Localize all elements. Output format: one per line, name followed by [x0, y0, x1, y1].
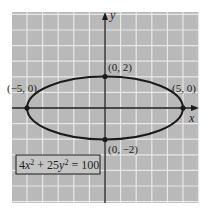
ellipse-graph: y x (0, 2) (0, −2) (−5, 0) (5, 0) 4x2 + …: [0, 0, 210, 215]
point-right: [180, 105, 185, 110]
label-top: (0, 2): [108, 61, 132, 74]
label-left: (−5, 0): [7, 82, 37, 95]
point-bottom: [102, 137, 107, 142]
label-right: (5, 0): [172, 82, 196, 95]
label-bottom: (0, −2): [108, 143, 138, 156]
x-axis-label: x: [188, 111, 195, 125]
point-top: [102, 74, 107, 79]
point-left: [24, 105, 29, 110]
y-axis-label: y: [109, 8, 116, 22]
